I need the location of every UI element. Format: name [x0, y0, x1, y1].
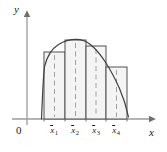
tick-label-1-base: x: [50, 126, 54, 135]
tick-label-3-sub: 3: [97, 129, 100, 136]
tick-label-2-base: x: [71, 126, 75, 135]
tick-label-4-base: x: [112, 126, 116, 135]
x-axis-label: x: [149, 127, 154, 138]
tick-label-4: x4: [112, 126, 120, 137]
tick-label-3-base: x: [92, 126, 96, 135]
figure-container: y x 0 x1 x2 x3 x4: [0, 0, 167, 152]
rectangle-group: [44, 40, 127, 119]
tick-label-4-sub: 4: [117, 129, 120, 136]
tick-label-2: x2: [71, 126, 79, 137]
figure-svg: [0, 0, 167, 152]
tick-label-2-sub: 2: [76, 129, 79, 136]
origin-label: 0: [16, 125, 22, 136]
tick-label-1-sub: 1: [55, 129, 58, 136]
tick-label-3: x3: [92, 126, 100, 137]
rectangle-3: [86, 46, 106, 119]
tick-label-1: x1: [50, 126, 58, 137]
y-axis-label: y: [14, 4, 19, 15]
